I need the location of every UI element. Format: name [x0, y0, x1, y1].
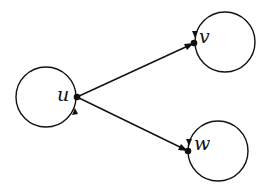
node-label-w: w	[194, 132, 210, 154]
self-loop-v-arrowhead	[192, 31, 198, 38]
edge-u-v	[77, 45, 190, 97]
node-w	[185, 148, 192, 155]
graph-canvas: u v w	[0, 0, 269, 194]
node-u	[74, 94, 81, 101]
node-v	[191, 40, 198, 47]
self-loop-w-arrowhead	[186, 139, 192, 146]
node-label-v: v	[199, 25, 210, 47]
node-label-u: u	[57, 83, 69, 105]
edge-u-w	[77, 97, 184, 149]
